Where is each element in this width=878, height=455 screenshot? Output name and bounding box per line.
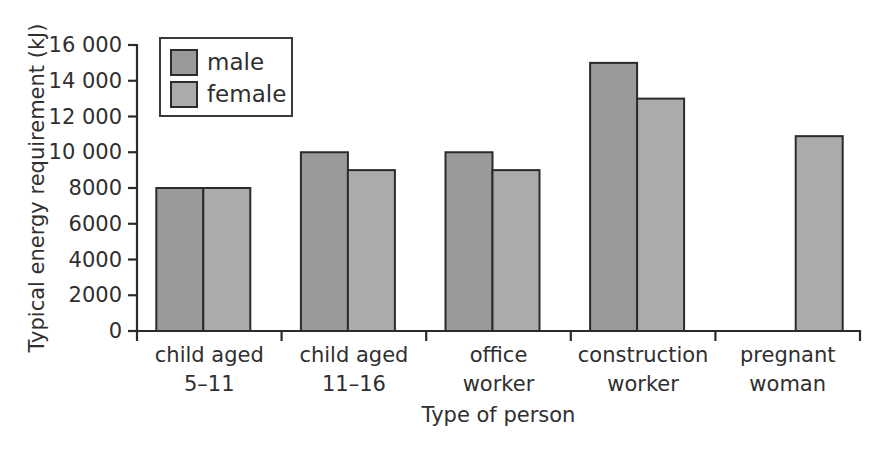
x-category-label-2: 11–16 xyxy=(322,372,386,396)
y-tick-label: 14 000 xyxy=(49,69,122,93)
chart-canvas: Typical energy requirement (kJ) 02000400… xyxy=(0,0,878,455)
chart-legend: malefemale xyxy=(160,38,292,116)
x-category-label-1: 5–11 xyxy=(184,372,235,396)
y-tick-label: 0 xyxy=(109,319,122,343)
y-tick-label: 8000 xyxy=(69,176,122,200)
bar-female-3 xyxy=(493,170,540,331)
x-axis-title: Type of person xyxy=(421,403,576,427)
legend-label-female: female xyxy=(207,81,286,107)
x-category-label-4: construction xyxy=(578,343,709,367)
bar-chart: Typical energy requirement (kJ) 02000400… xyxy=(0,0,878,455)
bar-male-1 xyxy=(156,188,203,331)
x-category-label-3: worker xyxy=(463,372,535,396)
x-category-label-1: child aged xyxy=(155,343,264,367)
bar-female-1 xyxy=(203,188,250,331)
bar-male-2 xyxy=(301,152,348,331)
x-category-label-4: worker xyxy=(607,372,679,396)
x-category-label-3: office xyxy=(470,343,528,367)
y-tick-label: 4000 xyxy=(69,248,122,272)
legend-swatch-male xyxy=(171,50,197,75)
y-tick-label: 12 000 xyxy=(49,105,122,129)
legend-swatch-female xyxy=(171,82,197,107)
x-category-label-5: pregnant xyxy=(740,343,835,367)
y-tick-label: 10 000 xyxy=(49,140,122,164)
y-tick-label: 16 000 xyxy=(49,33,122,57)
y-tick-label: 2000 xyxy=(69,283,122,307)
legend-label-male: male xyxy=(207,49,264,75)
y-axis-title-text: Typical energy requirement (kJ) xyxy=(25,24,49,354)
x-category-label-2: child aged xyxy=(299,343,408,367)
y-tick-label: 6000 xyxy=(69,212,122,236)
bar-female-2 xyxy=(348,170,395,331)
chart-background xyxy=(0,0,878,455)
x-axis-title-text: Type of person xyxy=(421,403,576,427)
y-axis-title: Typical energy requirement (kJ) xyxy=(25,24,49,354)
bar-female-4 xyxy=(637,99,684,331)
bar-male-3 xyxy=(446,152,493,331)
bar-male-4 xyxy=(590,63,637,331)
x-category-label-5: woman xyxy=(749,372,826,396)
bar-female-5 xyxy=(796,136,843,331)
